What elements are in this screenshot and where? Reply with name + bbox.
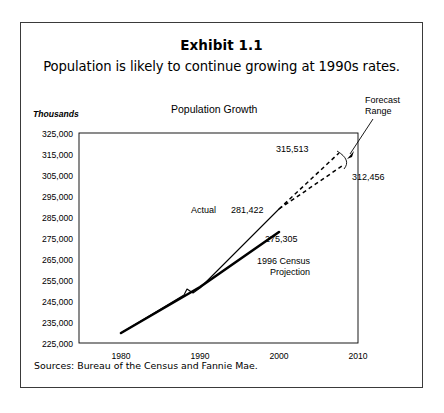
series-forecast-upper — [279, 153, 339, 209]
forecast-range-leader-line — [350, 119, 373, 154]
series-forecast-lower — [279, 166, 342, 209]
exhibit-frame: Exhibit 1.1 Population is likely to cont… — [20, 22, 423, 388]
annotation-actual-value: 281,422 — [231, 205, 264, 216]
population-growth-chart: Population Growth Thousands 325,000 315,… — [21, 23, 424, 389]
annotation-forecast-lower-value: 312,456 — [352, 172, 385, 183]
chart-plot-svg — [21, 23, 424, 389]
annotation-forecast-range-line2: Range — [365, 106, 392, 117]
series-actual — [121, 209, 279, 333]
annotation-projection-line1: 1996 Census — [257, 256, 310, 267]
source-note: Sources: Bureau of the Census and Fannie… — [34, 360, 258, 371]
annotation-forecast-range-line1: Forecast — [365, 95, 400, 106]
plot-frame — [79, 133, 358, 343]
forecast-range-arrowhead — [347, 151, 354, 159]
annotation-projection-line2: Projection — [270, 267, 310, 278]
annotation-actual-label: Actual — [191, 205, 216, 216]
series-1996-census-projection — [121, 232, 279, 333]
annotation-forecast-upper-value: 315,513 — [276, 144, 309, 155]
annotation-projection-value: 275,305 — [265, 234, 298, 245]
